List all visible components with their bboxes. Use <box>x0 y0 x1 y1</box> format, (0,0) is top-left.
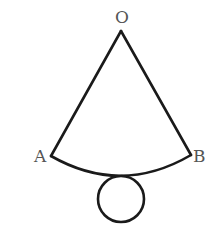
arc-AB <box>51 155 191 176</box>
radius-OB <box>121 31 191 155</box>
radius-OA <box>51 31 121 156</box>
label-O: O <box>115 7 129 27</box>
small-circle <box>98 176 144 222</box>
label-A: A <box>33 146 47 166</box>
diagram-canvas: O A B <box>0 0 218 230</box>
label-B: B <box>193 146 206 166</box>
sector-diagram: O A B <box>0 0 218 230</box>
